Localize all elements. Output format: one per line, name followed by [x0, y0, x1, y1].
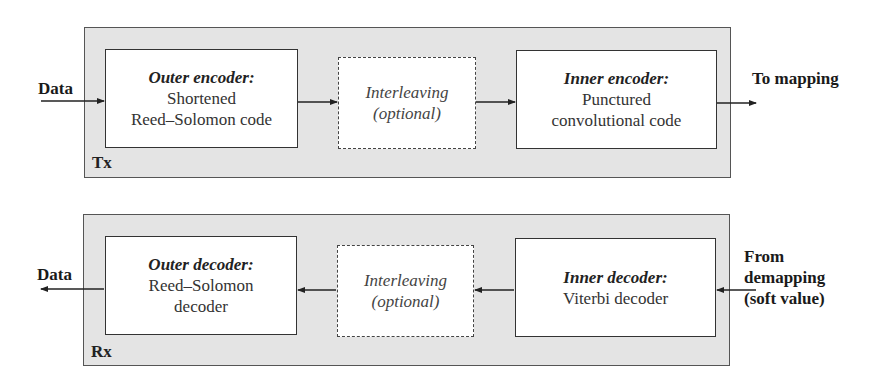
- signal-arrows: [0, 0, 880, 384]
